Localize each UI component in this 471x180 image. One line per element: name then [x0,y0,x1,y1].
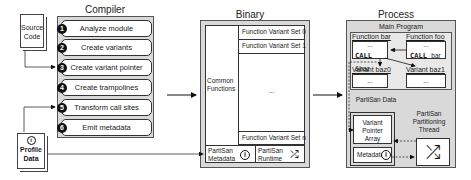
shuffle-icon: ⤮ [290,148,299,161]
variant-pointer-array-box: Variant Pointer Array [353,115,392,144]
source-code-document: Source Code [20,14,44,48]
partisan-data-label: PartiSan Data [355,96,397,104]
step-analyze-module: Analyze module [61,20,152,37]
common-functions-label: Common Functions [207,77,237,93]
function-bar-box: ... CALL &baz [352,41,388,59]
function-foo-label: Function foo [406,33,445,41]
step-number-3: 3 [57,63,67,73]
variant-set-1: Function Variant Set 1 [239,40,304,54]
profile-data-label: Profile Data [18,145,44,163]
function-bar-label: Function bar [352,33,391,41]
step-label: Create variants [81,43,132,52]
variant-pointer-array-label: Variant Pointer Array [362,119,383,142]
step-emit-metadata: Emit metadata [61,119,152,136]
source-code-label: Source Code [21,15,43,41]
main-program-label: Main Program [346,23,456,31]
variant-baz0-dots: ... [353,75,387,85]
function-foo-box: ... CALL bar [406,41,446,59]
partitioning-thread-label: PartiSan Partitioning Thread [408,110,450,134]
call-target: bar [431,52,440,59]
partitioning-thread-box: ⤮ [416,138,450,166]
process-title: Process [346,9,446,20]
step-label: Create trampolines [75,83,138,92]
partisan-metadata-label: PartiSan Metadata [208,147,238,163]
step-number-6: 6 [57,123,67,133]
partisan-runtime-label: PartiSan Runtime [258,147,288,163]
variant-set-0: Function Variant Set 0 [239,26,304,40]
call-instruction: CALL [355,52,372,60]
step-number-4: 4 [57,83,67,93]
step-create-variant-pointer-array: Create variant pointer array [61,59,152,76]
variant-baz0-box: ... [352,74,388,88]
step-create-trampolines: Create trampolines [61,79,152,96]
variant-set-n: Function Variant Set n [239,131,304,145]
call-instruction: CALL [410,52,427,60]
step-number-2: 2 [57,43,67,53]
step-create-variants: Create variants [61,39,152,56]
variant-baz1-label: Variant baz1 [406,66,445,74]
compiler-title: Compiler [55,4,155,15]
step-number-5: 5 [57,103,67,113]
step-label: Analyze module [80,24,133,33]
variant-set-ellipsis: ... [239,87,304,95]
profile-data-document: i Profile Data [17,133,45,169]
step-transform-call-sites: Transform call sites [61,99,152,116]
shuffle-icon: ⤮ [426,142,440,162]
step-label: Transform call sites [74,103,139,112]
variant-baz1-box: ... [406,74,446,88]
step-number-1: 1 [57,24,67,34]
runtime-divider [255,145,256,163]
binary-title: Binary [200,9,300,20]
info-icon: i [27,136,36,145]
variant-baz0-label: Variant baz0 [352,66,391,74]
info-icon: i [240,150,250,160]
step-label: Emit metadata [82,123,130,132]
variant-baz1-dots: ... [407,75,445,85]
info-icon: i [381,150,391,160]
